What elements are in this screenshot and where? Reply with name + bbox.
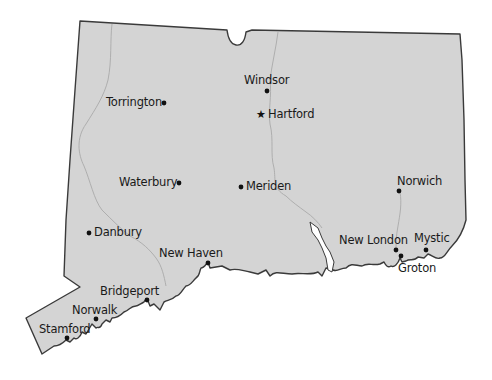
torrington-marker: [162, 101, 167, 106]
city-label-stamford: Stamford: [39, 324, 90, 336]
norwich-marker: [397, 189, 402, 194]
city-label-danbury: Danbury: [94, 227, 142, 239]
city-label-meriden: Meriden: [246, 181, 291, 193]
bridgeport-marker: [145, 298, 150, 303]
city-label-norwich: Norwich: [397, 176, 442, 188]
city-label-hartford: Hartford: [268, 109, 314, 121]
city-label-new-haven: New Haven: [159, 248, 223, 260]
city-label-mystic: Mystic: [414, 233, 450, 245]
city-label-new-london: New London: [339, 235, 408, 247]
windsor-marker: [265, 89, 270, 94]
stamford-marker: [65, 336, 70, 341]
star-icon: ★: [256, 109, 266, 120]
meriden-marker: [239, 185, 244, 190]
city-label-torrington: Torrington: [106, 97, 162, 109]
city-label-windsor: Windsor: [244, 75, 289, 87]
city-label-norwalk: Norwalk: [72, 305, 117, 317]
danbury-marker: [87, 231, 92, 236]
city-label-waterbury: Waterbury: [119, 177, 177, 189]
new-haven-marker: [206, 261, 211, 266]
new-london-marker: [394, 248, 399, 253]
city-label-bridgeport: Bridgeport: [100, 286, 159, 298]
mystic-marker: [424, 248, 429, 253]
groton-marker: [399, 254, 404, 259]
norwalk-marker: [94, 317, 99, 322]
city-label-groton: Groton: [398, 263, 436, 275]
